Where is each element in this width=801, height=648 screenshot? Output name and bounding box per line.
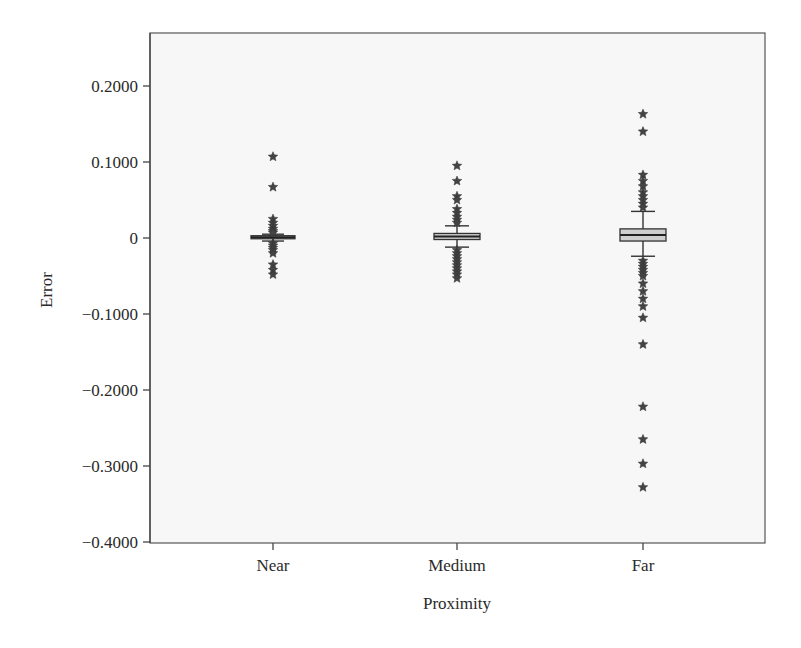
x-axis-title: Proximity <box>423 594 492 613</box>
y-tick-label: −0.4000 <box>82 533 138 552</box>
y-tick-label: −0.1000 <box>82 305 138 324</box>
plot-area <box>150 33 765 543</box>
y-axis: 0.20000.10000−0.1000−0.2000−0.3000−0.400… <box>82 33 150 552</box>
y-tick-label: 0.2000 <box>91 77 138 96</box>
x-tick-label-far: Far <box>632 556 655 575</box>
y-tick-label: −0.2000 <box>82 381 138 400</box>
y-tick-label: −0.3000 <box>82 457 138 476</box>
x-tick-label-near: Near <box>256 556 289 575</box>
box-plot-chart: 0.20000.10000−0.1000−0.2000−0.3000−0.400… <box>0 0 801 648</box>
x-axis: NearMediumFar <box>256 543 654 575</box>
y-tick-label: 0 <box>130 229 139 248</box>
x-tick-label-medium: Medium <box>428 556 486 575</box>
y-axis-title: Error <box>37 272 56 308</box>
y-tick-label: 0.1000 <box>91 153 138 172</box>
